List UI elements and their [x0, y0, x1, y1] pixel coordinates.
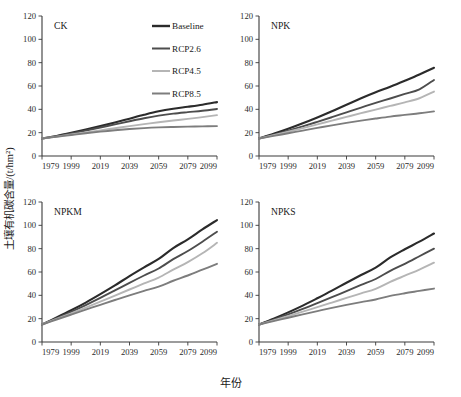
soc-multi-panel-chart: 0204060801001201979199920192039205920792… [0, 0, 461, 397]
y-tick-label: 0 [32, 337, 36, 347]
y-axis-label: 土壤有机碳含量/(t/hm²) [0, 0, 17, 397]
y-tick-label: 0 [249, 337, 253, 347]
x-tick-label: 2059 [150, 161, 167, 171]
x-tick-label: 2039 [121, 347, 138, 357]
series-line-rcp8-5 [42, 264, 217, 325]
panel-label-npkm: NPKM [54, 206, 82, 217]
y-tick-label: 60 [27, 267, 36, 277]
y-tick-label: 80 [27, 58, 36, 68]
y-tick-label: 0 [32, 151, 36, 161]
x-tick-label: 2039 [121, 161, 138, 171]
y-tick-label: 120 [240, 11, 253, 21]
x-tick-label: 2039 [338, 161, 355, 171]
series-line-rcp8-5 [42, 126, 217, 138]
y-tick-label: 20 [27, 314, 36, 324]
y-tick-label: 0 [249, 151, 253, 161]
x-tick-label: 2019 [92, 161, 109, 171]
x-tick-label: 2099 [200, 161, 217, 171]
x-tick-label: 1999 [280, 161, 297, 171]
x-tick-label: 1999 [63, 347, 80, 357]
series-line-baseline [259, 68, 434, 139]
y-tick-label: 100 [23, 34, 36, 44]
x-tick-label: 2099 [200, 347, 217, 357]
legend-label-rcp2-6: RCP2.6 [172, 44, 201, 54]
x-tick-label: 1999 [63, 161, 80, 171]
x-tick-label: 2019 [309, 347, 326, 357]
y-tick-label: 20 [244, 128, 253, 138]
y-tick-label: 60 [27, 81, 36, 91]
series-line-baseline [42, 220, 217, 324]
x-tick-label: 2099 [417, 347, 434, 357]
legend-label-baseline: Baseline [172, 21, 204, 31]
series-line-rcp8-5 [259, 111, 434, 138]
series-line-baseline [259, 234, 434, 325]
panel-npkm: 0204060801001201979199920192039205920792… [23, 197, 217, 356]
x-tick-label: 2079 [396, 347, 413, 357]
y-tick-label: 100 [23, 220, 36, 230]
x-tick-label: 2019 [309, 161, 326, 171]
x-tick-label: 1999 [280, 347, 297, 357]
y-tick-label: 40 [27, 290, 36, 300]
y-tick-label: 120 [23, 197, 36, 207]
x-tick-label: 2079 [396, 161, 413, 171]
legend-label-rcp4-5: RCP4.5 [172, 66, 201, 76]
x-tick-label: 1979 [42, 347, 59, 357]
y-tick-label: 20 [27, 128, 36, 138]
y-tick-label: 80 [244, 58, 253, 68]
y-tick-label: 40 [244, 290, 253, 300]
x-tick-label: 2079 [179, 347, 196, 357]
panel-npks: 0204060801001201979199920192039205920792… [240, 197, 434, 356]
x-tick-label: 1979 [42, 161, 59, 171]
y-tick-label: 100 [240, 220, 253, 230]
x-tick-label: 2059 [367, 347, 384, 357]
y-tick-label: 60 [244, 81, 253, 91]
x-axis-label: 年份 [0, 374, 461, 390]
x-tick-label: 2039 [338, 347, 355, 357]
y-tick-label: 120 [23, 11, 36, 21]
panel-label-npks: NPKS [271, 206, 296, 217]
series-line-rcp8-5 [259, 289, 434, 325]
legend-label-rcp8-5: RCP8.5 [172, 89, 201, 99]
y-tick-label: 80 [244, 244, 253, 254]
panel-label-npk: NPK [271, 20, 290, 31]
y-tick-label: 120 [240, 197, 253, 207]
x-tick-label: 1979 [259, 347, 276, 357]
legend: BaselineRCP2.6RCP4.5RCP8.5 [152, 21, 204, 99]
panel-npk: 0204060801001201979199920192039205920792… [240, 11, 434, 170]
panel-label-ck: CK [54, 20, 67, 31]
y-tick-label: 20 [244, 314, 253, 324]
x-tick-label: 2019 [92, 347, 109, 357]
x-tick-label: 2099 [417, 161, 434, 171]
x-tick-label: 2059 [150, 347, 167, 357]
x-tick-label: 1979 [259, 161, 276, 171]
figure-container: 土壤有机碳含量/(t/hm²) 020406080100120197919992… [0, 0, 461, 397]
x-tick-label: 2079 [179, 161, 196, 171]
y-tick-label: 80 [27, 244, 36, 254]
y-tick-label: 60 [244, 267, 253, 277]
x-tick-label: 2059 [367, 161, 384, 171]
y-tick-label: 40 [244, 104, 253, 114]
y-tick-label: 100 [240, 34, 253, 44]
y-tick-label: 40 [27, 104, 36, 114]
